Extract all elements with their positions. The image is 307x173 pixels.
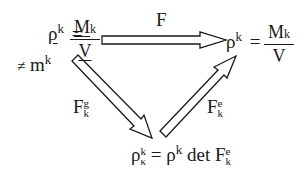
reference-note: ≠ mk bbox=[17, 53, 51, 74]
equals-sign: = bbox=[250, 31, 261, 52]
current-density: ρk = bbox=[226, 30, 260, 51]
fraction-bar bbox=[264, 44, 294, 45]
superscript: k bbox=[45, 52, 52, 67]
arrow-Fe-label: Fek bbox=[207, 97, 223, 119]
intermediate-density: ρkκ = ρk det Fek bbox=[131, 143, 231, 167]
label-F: F bbox=[156, 9, 167, 30]
reference-fraction: Mk V bbox=[70, 17, 100, 62]
label-F: F bbox=[207, 96, 218, 117]
numerator-subscript: k bbox=[284, 27, 290, 41]
subscript: k bbox=[226, 157, 232, 167]
subscript: k bbox=[218, 109, 224, 119]
arrow-F-label: F bbox=[156, 10, 167, 29]
arrow-Fe bbox=[160, 56, 236, 137]
fraction-bar bbox=[70, 39, 100, 40]
det-operator: det bbox=[187, 144, 210, 165]
superscript: k bbox=[176, 142, 183, 157]
denominator: V bbox=[273, 46, 286, 66]
superscript: k bbox=[235, 29, 242, 44]
arrow-Fg-label: Fgk bbox=[73, 97, 89, 119]
numerator: M bbox=[74, 17, 90, 37]
numerator-subscript: k bbox=[90, 22, 96, 36]
mass-symbol: m bbox=[30, 54, 45, 75]
rho-symbol: ρ bbox=[166, 144, 175, 165]
rho-symbol: ρ bbox=[131, 144, 140, 165]
subscript: k bbox=[84, 109, 90, 119]
current-fraction: Mk V bbox=[264, 22, 294, 67]
equals-sign: = bbox=[151, 144, 162, 165]
denominator: V bbox=[79, 41, 92, 61]
numerator: M bbox=[268, 22, 284, 42]
superscript: k bbox=[57, 21, 64, 36]
not-equal-sign: ≠ bbox=[17, 58, 25, 74]
subscript: κ bbox=[140, 157, 146, 167]
label-F: F bbox=[73, 96, 84, 117]
arrow-F bbox=[102, 32, 226, 48]
label-F: F bbox=[215, 144, 226, 165]
